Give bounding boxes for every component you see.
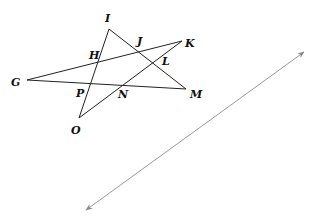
point-label-p: P: [75, 87, 85, 100]
point-label-h: H: [88, 49, 100, 62]
point-label-o: O: [71, 124, 81, 137]
point-labels: IGKMOHJLPN: [11, 12, 203, 137]
double-arrow-line: [86, 52, 304, 210]
point-label-m: M: [189, 88, 203, 101]
segment-io: [79, 29, 109, 118]
segment-gk: [27, 41, 182, 80]
point-label-g: G: [11, 76, 20, 89]
point-label-j: J: [135, 35, 143, 48]
point-label-i: I: [104, 12, 111, 25]
segment-gm: [27, 80, 186, 89]
point-label-k: K: [184, 37, 195, 50]
point-label-n: N: [117, 88, 129, 101]
geometry-diagram: IGKMOHJLPN: [0, 0, 318, 222]
star-figure: [27, 29, 186, 118]
segment-im: [109, 29, 186, 89]
point-label-l: L: [161, 55, 170, 68]
